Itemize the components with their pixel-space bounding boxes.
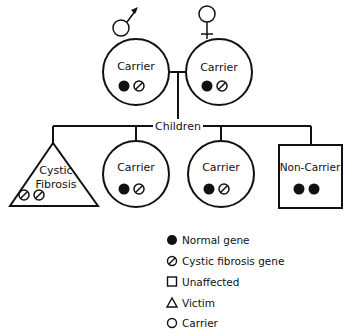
normal-gene-icon	[309, 184, 320, 195]
pedigree-diagram: Carrier Carrier Children Cystic Fibrosis…	[0, 0, 348, 330]
children-label: Children	[155, 120, 201, 133]
normal-gene-icon	[202, 81, 213, 92]
cf-gene-icon	[19, 190, 29, 200]
cf-gene-icon	[134, 81, 144, 91]
child-circle-2	[188, 141, 254, 207]
legend-triangle-icon	[167, 298, 177, 307]
child-4-label: Non-Carrier	[280, 161, 341, 173]
legend-label: Unaffected	[182, 276, 239, 288]
cf-gene-icon	[219, 184, 229, 194]
legend-square-icon	[168, 277, 177, 286]
child-3-label: Carrier	[202, 161, 240, 174]
legend-circle-icon	[168, 319, 177, 328]
normal-gene-icon	[119, 81, 130, 92]
child-circle-1	[103, 141, 169, 207]
female-symbol-icon	[199, 6, 215, 39]
mother-label: Carrier	[200, 61, 238, 74]
child-1-label-line2: Fibrosis	[35, 178, 76, 191]
cf-gene-icon	[134, 184, 144, 194]
normal-gene-icon	[119, 184, 130, 195]
cf-gene-icon	[217, 81, 227, 91]
child-2-label: Carrier	[117, 161, 155, 174]
male-symbol-icon	[113, 7, 138, 36]
normal-gene-icon	[204, 184, 215, 195]
legend-label: Normal gene	[182, 234, 250, 246]
legend-label: Carrier	[182, 317, 219, 329]
normal-gene-icon	[294, 184, 305, 195]
child-square	[279, 145, 342, 208]
legend-slashed-circle-icon	[168, 257, 177, 266]
father-label: Carrier	[117, 60, 155, 73]
legend-label: Cystic fibrosis gene	[182, 255, 284, 267]
legend-label: Victim	[182, 297, 215, 309]
child-1-label-line1: Cystic	[39, 164, 72, 177]
cf-gene-icon	[34, 190, 44, 200]
legend-filled-circle-icon	[167, 235, 177, 245]
legend: Normal gene Cystic fibrosis gene Unaffec…	[167, 234, 284, 329]
